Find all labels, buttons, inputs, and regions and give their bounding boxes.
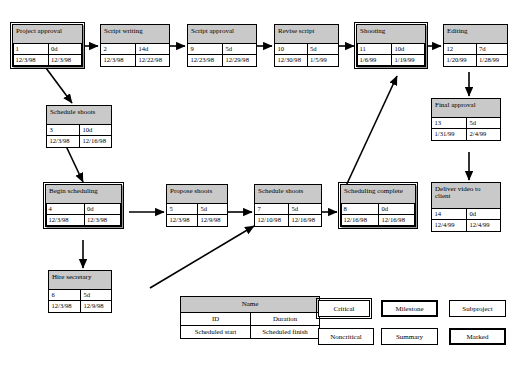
node-duration: 7d — [476, 44, 508, 54]
node-duration: 0d — [84, 204, 122, 214]
node-start: 1/6/99 — [357, 55, 391, 66]
node-id: 8 — [341, 204, 378, 214]
node-begin-scheduling[interactable]: Begin scheduling 4 0d 12/3/98 12/3/98 — [45, 184, 122, 227]
node-duration: 5d — [307, 44, 339, 54]
node-editing[interactable]: Editing 12 7d 1/20/99 1/28/99 — [443, 24, 508, 67]
node-finish: 12/16/98 — [288, 215, 321, 226]
legend-swatch-critical: Critical — [318, 300, 370, 317]
node-duration: 5d — [197, 204, 227, 214]
node-title: Schedule shoots — [47, 106, 111, 125]
node-title: Script approval — [188, 25, 256, 44]
node-start: 12/3/98 — [47, 136, 79, 147]
legend-finish-label: Scheduled finish — [250, 326, 319, 338]
legend-start-label: Scheduled start — [181, 326, 250, 338]
node-id: 2 — [101, 44, 135, 54]
node-id: 1 — [13, 44, 48, 54]
node-finish: 12/22/98 — [135, 55, 169, 66]
node-id: 6 — [49, 290, 80, 300]
node-start: 12/10/98 — [255, 215, 288, 226]
node-start: 12/23/98 — [188, 55, 222, 66]
node-start: 1/31/99 — [432, 129, 466, 140]
node-script-writing[interactable]: Script writing 2 14d 12/3/98 12/22/98 — [100, 24, 170, 67]
node-duration: 5d — [222, 44, 256, 54]
node-start: 12/3/98 — [49, 301, 80, 312]
node-id: 14 — [432, 209, 466, 219]
node-final-approval[interactable]: Final approval 13 5d 1/31/99 2/4/99 — [431, 98, 501, 141]
node-start: 12/30/98 — [275, 55, 307, 66]
node-finish: 12/3/98 — [48, 55, 83, 66]
node-finish: 1/28/99 — [476, 55, 508, 66]
node-id: 12 — [444, 44, 476, 54]
node-finish: 1/5/99 — [307, 55, 339, 66]
node-id: 3 — [47, 125, 79, 135]
node-duration: 0d — [48, 44, 83, 54]
node-id: 4 — [46, 204, 84, 214]
edge-scheduling-complete-to-shooting — [345, 76, 397, 188]
node-title: Schedule shoots — [255, 185, 321, 204]
node-title: Script writing — [101, 25, 169, 44]
node-duration: 14d — [135, 44, 169, 54]
node-start: 1/20/99 — [444, 55, 476, 66]
node-duration: 5d — [288, 204, 321, 214]
node-finish: 1/19/99 — [391, 55, 425, 66]
node-scheduling-complete[interactable]: Scheduling complete 8 0d 12/16/98 12/16/… — [340, 184, 416, 227]
node-id: 7 — [255, 204, 288, 214]
node-title: Project approval — [13, 25, 82, 44]
node-title: Hire secretary — [49, 271, 111, 290]
node-title: Revise script — [275, 25, 338, 44]
node-finish: 12/29/98 — [222, 55, 256, 66]
node-finish: 12/9/98 — [80, 301, 111, 312]
legend-swatch-subproject: Subproject — [449, 300, 506, 317]
node-project-approval[interactable]: Project approval 1 0d 12/3/98 12/3/98 — [12, 24, 83, 67]
node-duration: 5d — [80, 290, 111, 300]
legend-swatch-noncritical: Noncritical — [318, 328, 374, 345]
node-duration: 10d — [79, 125, 111, 135]
legend-swatch-marked: Marked — [449, 328, 506, 345]
node-finish: 12/3/98 — [84, 215, 122, 226]
legend-duration-label: Duration — [250, 313, 319, 325]
node-duration: 5d — [466, 118, 500, 128]
node-start: 12/3/98 — [46, 215, 84, 226]
node-id: 13 — [432, 118, 466, 128]
node-start: 12/16/98 — [341, 215, 378, 226]
node-schedule-shoots-3[interactable]: Schedule shoots 3 10d 12/3/98 12/16/98 — [46, 105, 112, 148]
legend-id-label: ID — [181, 313, 250, 325]
node-id: 9 — [188, 44, 222, 54]
node-script-approval[interactable]: Script approval 9 5d 12/23/98 12/29/98 — [187, 24, 257, 67]
node-finish: 12/4/99 — [466, 220, 500, 231]
node-title: Propose shoots — [167, 185, 227, 204]
node-title: Scheduling complete — [341, 185, 415, 204]
node-finish: 2/4/99 — [466, 129, 500, 140]
node-start: 12/4/99 — [432, 220, 466, 231]
edge-project-approval-to-schedule-shoots-3 — [46, 68, 72, 103]
node-hire-secretary[interactable]: Hire secretary 6 5d 12/3/98 12/9/98 — [48, 270, 112, 313]
node-duration: 0d — [466, 209, 500, 219]
node-title: Shooting — [357, 25, 425, 44]
edge-schedule-shoots-3-to-begin-scheduling — [66, 146, 83, 182]
diagram-canvas: Project approval 1 0d 12/3/98 12/3/98 Sc… — [0, 0, 520, 365]
node-title: Editing — [444, 25, 507, 44]
legend-swatch-milestone: Milestone — [381, 300, 438, 317]
node-start: 12/3/98 — [101, 55, 135, 66]
legend-name-label: Name — [181, 297, 319, 313]
node-deliver-video-to-client[interactable]: Deliver video to client 14 0d 12/4/99 12… — [431, 182, 501, 232]
node-title: Deliver video to client — [432, 183, 500, 209]
node-id: 11 — [357, 44, 391, 54]
node-duration: 10d — [391, 44, 425, 54]
node-title: Final approval — [432, 99, 500, 118]
node-finish: 12/16/98 — [378, 215, 415, 226]
node-schedule-shoots-7[interactable]: Schedule shoots 7 5d 12/10/98 12/16/98 — [254, 184, 322, 227]
node-duration: 0d — [378, 204, 415, 214]
node-revise-script[interactable]: Revise script 10 5d 12/30/98 1/5/99 — [274, 24, 339, 67]
legend-swatch-summary: Summary — [381, 328, 438, 345]
node-id: 10 — [275, 44, 307, 54]
node-id: 5 — [167, 204, 197, 214]
node-finish: 12/16/98 — [79, 136, 111, 147]
legend-key-template: Name ID Duration Scheduled start Schedul… — [180, 296, 320, 339]
node-propose-shoots[interactable]: Propose shoots 5 5d 12/3/98 12/9/98 — [166, 184, 228, 227]
node-finish: 12/9/98 — [197, 215, 227, 226]
node-title: Begin scheduling — [46, 185, 121, 204]
node-start: 12/3/98 — [167, 215, 197, 226]
node-shooting[interactable]: Shooting 11 10d 1/6/99 1/19/99 — [356, 24, 426, 67]
edge-hire-secretary-to-schedule-shoots-7 — [150, 226, 254, 288]
